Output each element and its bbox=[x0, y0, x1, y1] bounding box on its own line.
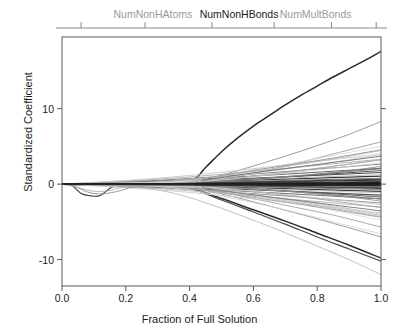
chart-root: NumNonHAtomsNumNonHBondsNumMultBonds Sta… bbox=[0, 0, 399, 335]
y-axis-label: Standardized Coefficient bbox=[22, 42, 34, 222]
x-tick-label: 0.8 bbox=[310, 292, 325, 304]
y-tick-label: -10 bbox=[28, 254, 54, 266]
coefficient-path-plot bbox=[0, 0, 399, 335]
y-tick-label: 10 bbox=[28, 103, 54, 115]
x-tick-label: 0.0 bbox=[55, 292, 70, 304]
x-tick-label: 0.4 bbox=[182, 292, 197, 304]
x-tick-label: 0.6 bbox=[246, 292, 261, 304]
x-axis-label: Fraction of Full Solution bbox=[0, 313, 399, 325]
y-tick-label: 0 bbox=[28, 178, 54, 190]
x-tick-label: 1.0 bbox=[374, 292, 389, 304]
plot-frame bbox=[62, 37, 381, 286]
x-tick-label: 0.2 bbox=[118, 292, 133, 304]
